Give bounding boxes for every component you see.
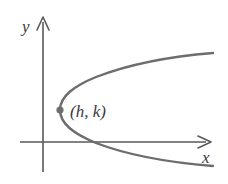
vertex-label: (h, k) bbox=[70, 102, 106, 121]
vertex-point-marker bbox=[56, 106, 63, 113]
x-axis-label: x bbox=[201, 148, 210, 167]
y-axis-label: y bbox=[20, 17, 30, 36]
figure-canvas: y x (h, k) bbox=[0, 0, 228, 184]
parabola-figure: y x (h, k) bbox=[0, 0, 228, 184]
